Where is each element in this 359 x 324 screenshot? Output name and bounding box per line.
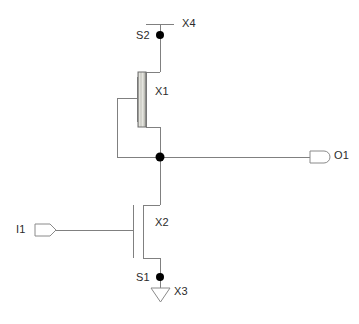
label-x4: X4 xyxy=(182,18,196,29)
output-port-shape[interactable] xyxy=(310,151,330,163)
circuit-schematic-svg xyxy=(0,0,359,324)
label-x1: X1 xyxy=(155,86,169,97)
pmos-gate-plate xyxy=(138,72,146,127)
junction-dot-s2 xyxy=(156,31,164,39)
label-s1: S1 xyxy=(136,272,150,283)
junction-dot-s1 xyxy=(156,273,164,281)
label-i1: I1 xyxy=(16,224,26,235)
label-o1: O1 xyxy=(334,150,349,161)
input-port-shape[interactable] xyxy=(35,224,56,236)
schematic-canvas: X4 S2 X1 O1 I1 X2 S1 X3 xyxy=(0,0,359,324)
label-x2: X2 xyxy=(155,217,169,228)
ground-triangle-icon xyxy=(151,288,170,302)
label-s2: S2 xyxy=(136,30,150,41)
label-x3: X3 xyxy=(174,286,188,297)
junction-dot-output xyxy=(156,153,165,162)
